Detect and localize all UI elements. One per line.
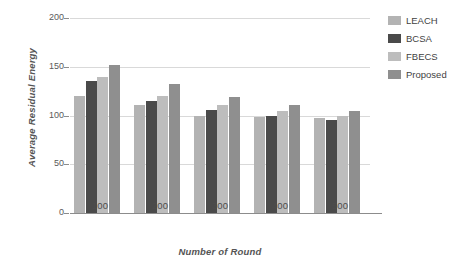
y-tick-label: 200 xyxy=(24,12,64,22)
legend-swatch-icon xyxy=(388,52,401,61)
x-axis-baseline xyxy=(70,213,382,214)
bar-chart-figure: Average Residual Energy Number of Round … xyxy=(0,0,458,272)
bar xyxy=(254,117,265,213)
y-tick-label: 50 xyxy=(24,158,64,168)
bar xyxy=(157,96,168,213)
bar-group xyxy=(134,18,180,213)
bar xyxy=(169,84,180,213)
bar xyxy=(266,116,277,214)
bar xyxy=(289,105,300,213)
bar-group xyxy=(314,18,360,213)
y-tick-mark xyxy=(64,116,69,117)
bar xyxy=(86,81,97,213)
x-tick-label: 300 xyxy=(190,200,250,211)
bar-group xyxy=(254,18,300,213)
bar xyxy=(134,105,145,213)
bar xyxy=(277,111,288,213)
bar xyxy=(229,97,240,213)
legend-item-label: BCSA xyxy=(406,33,432,44)
bar xyxy=(74,96,85,213)
legend-item-label: FBECS xyxy=(406,51,438,62)
y-tick-mark xyxy=(64,18,69,19)
plot-area xyxy=(70,18,370,213)
legend-item-label: LEACH xyxy=(406,15,438,26)
bar xyxy=(337,116,348,214)
bar xyxy=(349,111,360,213)
legend-swatch-icon xyxy=(388,16,401,25)
bar xyxy=(314,118,325,213)
bar xyxy=(109,65,120,213)
y-tick-mark xyxy=(64,213,69,214)
legend-item[interactable]: BCSA xyxy=(388,30,458,46)
y-tick-mark xyxy=(64,67,69,68)
bar xyxy=(206,110,217,213)
x-tick-label: 400 xyxy=(250,200,310,211)
legend-item[interactable]: FBECS xyxy=(388,48,458,64)
bar xyxy=(217,105,228,213)
bar-group xyxy=(194,18,240,213)
bar xyxy=(194,116,205,213)
bar-group xyxy=(74,18,120,213)
x-tick-label: 100 xyxy=(70,200,130,211)
y-tick-mark xyxy=(64,164,69,165)
y-axis-title: Average Residual Energy xyxy=(26,13,37,203)
bar xyxy=(146,101,157,213)
legend-swatch-icon xyxy=(388,34,401,43)
legend-swatch-icon xyxy=(388,70,401,79)
legend-item[interactable]: LEACH xyxy=(388,12,458,28)
legend-item-label: Proposed xyxy=(406,69,447,80)
y-tick-label: 100 xyxy=(24,110,64,120)
legend-item[interactable]: Proposed xyxy=(388,66,458,82)
x-tick-label: 500 xyxy=(310,200,370,211)
x-axis-title: Number of Round xyxy=(70,246,370,257)
x-tick-label: 200 xyxy=(130,200,190,211)
bar xyxy=(97,77,108,214)
y-tick-label: 0 xyxy=(24,207,64,217)
chart-legend: LEACHBCSAFBECSProposed xyxy=(388,12,458,84)
y-tick-label: 150 xyxy=(24,61,64,71)
